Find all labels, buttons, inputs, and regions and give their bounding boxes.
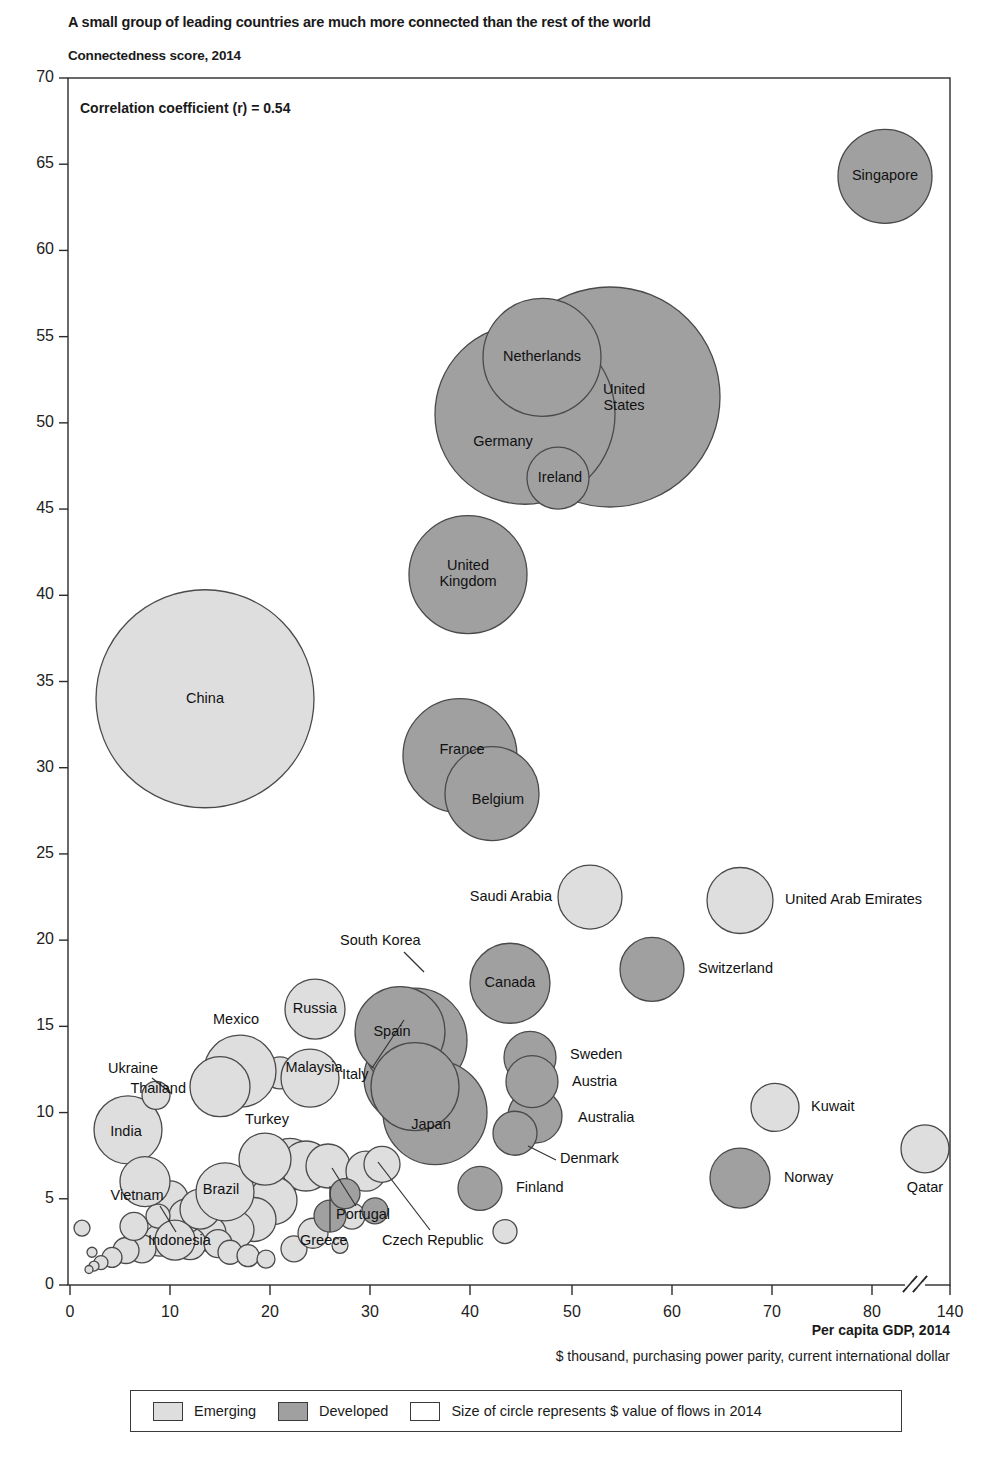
bubble-thailand[interactable] (190, 1057, 250, 1117)
bubble-label-sweden: Sweden (570, 1046, 622, 1062)
bubble-united-arab-emirates[interactable] (707, 867, 773, 933)
bubble-malaysia[interactable] (281, 1049, 339, 1107)
bubble-label-finland: Finland (516, 1179, 564, 1195)
bubble-label-mexico: Mexico (213, 1011, 259, 1027)
bubble-switzerland[interactable] (620, 937, 684, 1001)
legend-swatch-emerging (153, 1402, 183, 1421)
y-tick-60: 60 (10, 240, 54, 258)
bubble-unlabeled[interactable] (237, 1245, 259, 1267)
bubble-label-saudi-arabia: Saudi Arabia (470, 888, 552, 904)
bubble-label-kuwait: Kuwait (811, 1098, 855, 1114)
bubble-label-russia: Russia (293, 1000, 337, 1016)
y-tick-15: 15 (10, 1016, 54, 1034)
x-tick-10: 10 (140, 1303, 200, 1321)
x-axis-sublabel: $ thousand, purchasing power parity, cur… (556, 1348, 950, 1364)
y-tick-70: 70 (10, 68, 54, 86)
bubble-label-france: France (439, 741, 484, 757)
bubble-unlabeled[interactable] (257, 1250, 275, 1268)
bubble-label-canada: Canada (485, 974, 536, 990)
x-tick-60: 60 (642, 1303, 702, 1321)
x-tick-140: 140 (920, 1303, 980, 1321)
bubble-label-qatar: Qatar (907, 1179, 943, 1195)
bubble-label-belgium: Belgium (472, 791, 524, 807)
y-tick-10: 10 (10, 1103, 54, 1121)
bubble-label-malaysia: Malaysia (285, 1059, 342, 1075)
x-tick-30: 30 (340, 1303, 400, 1321)
bubble-label-greece: Greece (300, 1232, 348, 1248)
y-tick-55: 55 (10, 327, 54, 345)
bubble-label-germany: Germany (473, 433, 533, 449)
x-tick-70: 70 (742, 1303, 802, 1321)
bubble-label-south-korea: South Korea (340, 932, 421, 948)
bubble-denmark[interactable] (493, 1111, 537, 1155)
bubble-label-australia: Australia (578, 1109, 634, 1125)
chart-canvas: A small group of leading countries are m… (0, 0, 996, 1464)
x-tick-40: 40 (440, 1303, 500, 1321)
bubble-label-brazil: Brazil (203, 1181, 239, 1197)
y-tick-40: 40 (10, 585, 54, 603)
legend-swatch-developed (278, 1402, 308, 1421)
y-tick-45: 45 (10, 499, 54, 517)
bubble-label-ireland: Ireland (538, 469, 582, 485)
bubble-label-austria: Austria (572, 1073, 617, 1089)
bubble-unlabeled[interactable] (493, 1220, 517, 1244)
y-tick-0: 0 (10, 1275, 54, 1293)
bubble-label-netherlands: Netherlands (503, 348, 581, 364)
legend-item-emerging[interactable]: Emerging (153, 1402, 256, 1421)
y-tick-25: 25 (10, 844, 54, 862)
bubble-label-united-states: UnitedStates (576, 381, 672, 413)
bubble-unlabeled[interactable] (74, 1220, 90, 1236)
legend-label-developed: Developed (319, 1403, 388, 1419)
y-tick-30: 30 (10, 758, 54, 776)
y-tick-35: 35 (10, 672, 54, 690)
y-tick-20: 20 (10, 930, 54, 948)
bubble-qatar[interactable] (901, 1125, 949, 1173)
bubble-unlabeled[interactable] (85, 1265, 93, 1273)
bubble-unlabeled[interactable] (120, 1212, 148, 1240)
x-axis-label: Per capita GDP, 2014 (812, 1322, 950, 1338)
bubble-label-indonesia: Indonesia (148, 1232, 211, 1248)
bubble-label-united-arab-emirates: United Arab Emirates (785, 891, 922, 907)
bubble-norway[interactable] (710, 1148, 770, 1208)
bubble-turkey[interactable] (239, 1133, 291, 1185)
legend-item-developed[interactable]: Developed (278, 1402, 388, 1421)
bubble-label-switzerland: Switzerland (698, 960, 773, 976)
bubble-label-vietnam: Vietnam (111, 1187, 164, 1203)
bubble-label-china: China (186, 690, 224, 706)
bubble-label-portugal: Portugal (336, 1206, 390, 1222)
x-tick-80: 80 (842, 1303, 902, 1321)
bubble-label-turkey: Turkey (245, 1111, 289, 1127)
bubble-austria[interactable] (506, 1056, 558, 1108)
y-tick-65: 65 (10, 154, 54, 172)
bubble-label-united-kingdom: UnitedKingdom (420, 557, 516, 589)
bubble-label-denmark: Denmark (560, 1150, 619, 1166)
bubble-label-italy: Italy (342, 1066, 369, 1082)
bubble-label-norway: Norway (784, 1169, 833, 1185)
x-tick-50: 50 (542, 1303, 602, 1321)
x-tick-20: 20 (240, 1303, 300, 1321)
bubble-kuwait[interactable] (751, 1083, 799, 1131)
y-tick-50: 50 (10, 413, 54, 431)
legend-label-emerging: Emerging (194, 1403, 256, 1419)
y-tick-5: 5 (10, 1189, 54, 1207)
bubble-label-spain: Spain (373, 1023, 410, 1039)
bubble-unlabeled[interactable] (87, 1247, 97, 1257)
bubble-saudi-arabia[interactable] (558, 865, 622, 929)
legend-item-size: Size of circle represents $ value of flo… (410, 1402, 761, 1421)
bubble-finland[interactable] (458, 1166, 502, 1210)
bubble-label-thailand: Thailand (130, 1080, 186, 1096)
correlation-annotation: Correlation coefficient (r) = 0.54 (80, 100, 290, 116)
bubble-label-japan: Japan (411, 1116, 451, 1132)
bubble-unlabeled[interactable] (364, 1146, 400, 1182)
bubble-label-singapore: Singapore (852, 167, 918, 183)
bubble-label-india: India (110, 1123, 141, 1139)
x-tick-0: 0 (40, 1303, 100, 1321)
bubble-label-czech-republic: Czech Republic (382, 1232, 484, 1248)
bubble-label-ukraine: Ukraine (108, 1060, 158, 1076)
legend: Emerging Developed Size of circle repres… (130, 1390, 902, 1432)
legend-label-size: Size of circle represents $ value of flo… (451, 1403, 761, 1419)
legend-swatch-size (410, 1402, 440, 1421)
